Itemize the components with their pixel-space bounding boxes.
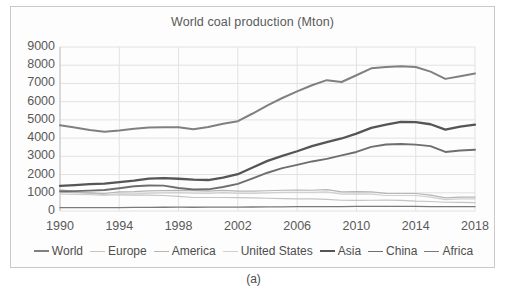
x-tick-label: 2018 [447,219,503,233]
legend-swatch-europe [90,251,105,252]
figure-caption: (a) [0,272,507,286]
y-tick-label: 9000 [11,39,55,53]
y-tick-label: 3000 [11,148,55,162]
legend-label-asia: Asia [338,244,361,258]
x-tick-label: 2010 [328,219,384,233]
series-line-china [60,144,475,191]
x-tick-label: 1990 [32,219,88,233]
x-tick-label: 2006 [269,219,325,233]
x-tick-label: 1994 [91,219,147,233]
series-line-africa [60,206,475,207]
chart-legend: WorldEuropeAmericaUnited StatesAsiaChina… [11,244,496,258]
legend-item-europe[interactable]: Europe [90,244,147,258]
legend-swatch-china [368,251,383,252]
series-lines [60,66,475,208]
y-tick-label: 7000 [11,75,55,89]
legend-item-america[interactable]: America [154,244,216,258]
y-tick-label: 6000 [11,94,55,108]
legend-swatch-united-states [223,251,238,252]
x-tick-label: 1998 [151,219,207,233]
legend-item-asia[interactable]: Asia [320,244,361,258]
legend-label-africa: Africa [442,244,473,258]
x-tick-label: 2014 [388,219,444,233]
legend-item-africa[interactable]: Africa [424,244,473,258]
legend-swatch-america [154,251,169,252]
legend-label-america: America [172,244,216,258]
legend-swatch-africa [424,251,439,252]
y-tick-label: 0 [11,203,55,217]
legend-item-china[interactable]: China [368,244,417,258]
legend-swatch-asia [320,250,335,252]
y-tick-label: 1000 [11,185,55,199]
series-line-asia [60,122,475,186]
y-tick-label: 4000 [11,130,55,144]
y-tick-label: 8000 [11,57,55,71]
gridlines [60,47,475,211]
legend-label-united-states: United States [241,244,313,258]
legend-label-europe: Europe [108,244,147,258]
y-tick-label: 2000 [11,167,55,181]
x-tick-label: 2002 [210,219,266,233]
legend-item-world[interactable]: World [34,244,83,258]
chart-frame: World coal production (Mton) 90008000700… [10,6,495,268]
legend-label-china: China [386,244,417,258]
y-tick-label: 5000 [11,112,55,126]
legend-item-united-states[interactable]: United States [223,244,313,258]
legend-swatch-world [34,250,49,252]
figure-panel: World coal production (Mton) 90008000700… [0,0,507,295]
legend-label-world: World [52,244,83,258]
